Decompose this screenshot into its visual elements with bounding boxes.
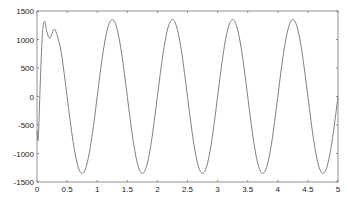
line-chart: 00.511.522.533.544.55 150010005000-500-1… — [0, 0, 348, 198]
x-tick-label: 3 — [215, 185, 220, 194]
y-tick-label: 0 — [30, 93, 35, 102]
x-tick-label: 3.5 — [242, 185, 254, 194]
y-tick-label: -1000 — [14, 150, 35, 159]
series-line-signal — [37, 20, 338, 174]
y-tick-label: 1500 — [16, 7, 34, 16]
y-axis: 150010005000-500-1000-1500 — [14, 7, 338, 187]
x-tick-label: 2 — [155, 185, 160, 194]
x-tick-label: 1.5 — [122, 185, 134, 194]
x-tick-label: 4.5 — [302, 185, 314, 194]
y-tick-label: 500 — [21, 64, 35, 73]
y-tick-label: -1500 — [14, 178, 35, 187]
y-tick-label: 1000 — [16, 36, 34, 45]
x-tick-label: 5 — [336, 185, 341, 194]
x-tick-label: 2.5 — [182, 185, 194, 194]
x-tick-label: 4 — [276, 185, 281, 194]
y-tick-label: -500 — [18, 121, 35, 130]
x-tick-label: 0.5 — [62, 185, 74, 194]
x-tick-label: 0 — [35, 185, 40, 194]
x-tick-label: 1 — [95, 185, 100, 194]
